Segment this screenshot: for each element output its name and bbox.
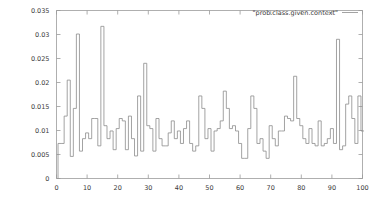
series-prob-class-given-context xyxy=(58,26,364,178)
x-tick-label: 0 xyxy=(54,184,58,192)
x-tick-label: 50 xyxy=(205,184,213,192)
legend-label-prob-class-given-context: "prob.class.given.context" xyxy=(253,9,338,17)
x-tick-label: 70 xyxy=(267,184,275,192)
y-tick-label: 0.005 xyxy=(31,151,50,159)
chart-container: 00.0050.010.0150.020.0250.030.035 010203… xyxy=(0,0,374,201)
x-tick-label: 10 xyxy=(83,184,91,192)
y-tick-label: 0.035 xyxy=(31,7,50,15)
x-tick-label: 20 xyxy=(114,184,122,192)
y-tick-label: 0.02 xyxy=(35,79,49,87)
y-tick-label: 0.015 xyxy=(31,103,50,111)
x-tick-label: 60 xyxy=(236,184,244,192)
x-tick-label: 30 xyxy=(144,184,152,192)
y-tick-label: 0.01 xyxy=(35,127,49,135)
x-tick-label: 90 xyxy=(328,184,336,192)
y-tick-label: 0.025 xyxy=(31,55,50,63)
y-axis-tick-marks xyxy=(57,11,363,179)
y-tick-label: 0 xyxy=(45,175,49,183)
y-axis-tick-labels: 00.0050.010.0150.020.0250.030.035 xyxy=(31,7,50,183)
x-tick-label: 80 xyxy=(297,184,305,192)
x-tick-label: 40 xyxy=(175,184,183,192)
step-line-chart: 00.0050.010.0150.020.0250.030.035 010203… xyxy=(0,0,374,201)
x-tick-label: 100 xyxy=(356,184,368,192)
plot-frame-border xyxy=(57,11,363,179)
y-tick-label: 0.03 xyxy=(35,31,49,39)
x-axis-tick-labels: 0102030405060708090100 xyxy=(54,184,368,192)
x-axis-tick-marks xyxy=(57,11,363,179)
